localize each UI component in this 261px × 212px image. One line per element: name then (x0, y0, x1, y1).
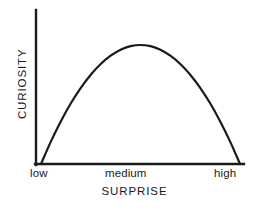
y-axis-title: CURIOSITY (17, 34, 29, 134)
chart-figure: low medium high SURPRISE CURIOSITY (0, 0, 261, 212)
curiosity-curve (41, 45, 240, 164)
x-tick-label-medium: medium (105, 168, 147, 180)
chart-plot-area (0, 0, 261, 212)
x-axis-title: SURPRISE (0, 186, 261, 198)
x-tick-label-low: low (30, 168, 48, 180)
x-axis-title-text: SURPRISE (102, 185, 168, 197)
x-tick-label-high: high (214, 168, 236, 180)
